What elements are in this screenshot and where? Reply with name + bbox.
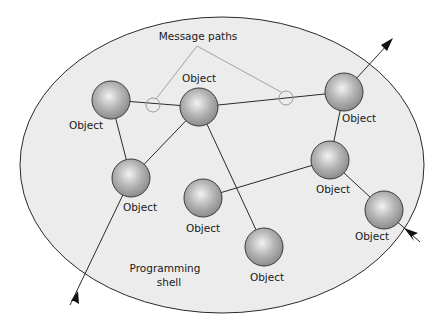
object-node-6[interactable] <box>184 179 222 217</box>
shell-label-line2: shell <box>157 276 181 288</box>
object-label-5: Object <box>316 183 350 195</box>
object-diagram: Message paths Object Object Object Objec… <box>0 0 441 329</box>
object-label-4: Object <box>123 201 157 213</box>
object-node-1[interactable] <box>92 81 130 119</box>
object-label-7: Object <box>250 271 284 283</box>
message-paths-label: Message paths <box>159 30 238 42</box>
programming-shell <box>20 17 424 313</box>
object-node-8[interactable] <box>365 191 403 229</box>
arrowhead-in-n8-icon <box>404 228 418 241</box>
object-label-1: Object <box>69 119 103 131</box>
object-label-3: Object <box>342 112 376 124</box>
object-node-4[interactable] <box>112 159 150 197</box>
shell-label-line1: Programming <box>130 262 201 274</box>
object-node-3[interactable] <box>325 73 363 111</box>
arrowhead-in-n4-icon <box>71 291 79 304</box>
object-node-5[interactable] <box>311 141 349 179</box>
object-label-2: Object <box>182 72 216 84</box>
object-label-8: Object <box>355 230 389 242</box>
object-node-7[interactable] <box>245 228 283 266</box>
object-label-6: Object <box>186 222 220 234</box>
object-node-2[interactable] <box>180 88 218 126</box>
